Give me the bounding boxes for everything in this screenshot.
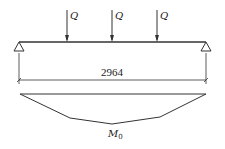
load-label-3: Q <box>160 10 168 21</box>
load-arrow-2: Q <box>110 10 123 42</box>
span-label: 2964 <box>101 66 124 78</box>
moment-label: M0 <box>107 128 123 141</box>
right-support-icon <box>201 42 211 51</box>
left-support-icon <box>14 42 24 51</box>
load-label-1: Q <box>70 10 78 21</box>
load-arrow-3: Q <box>155 10 168 42</box>
moment-diagram: M0 <box>20 94 206 141</box>
beam-diagram: Q Q Q 2964 M0 <box>0 0 225 149</box>
span-dimension: 2964 <box>17 53 208 84</box>
load-arrow-1: Q <box>65 10 78 42</box>
load-label-2: Q <box>115 10 123 21</box>
